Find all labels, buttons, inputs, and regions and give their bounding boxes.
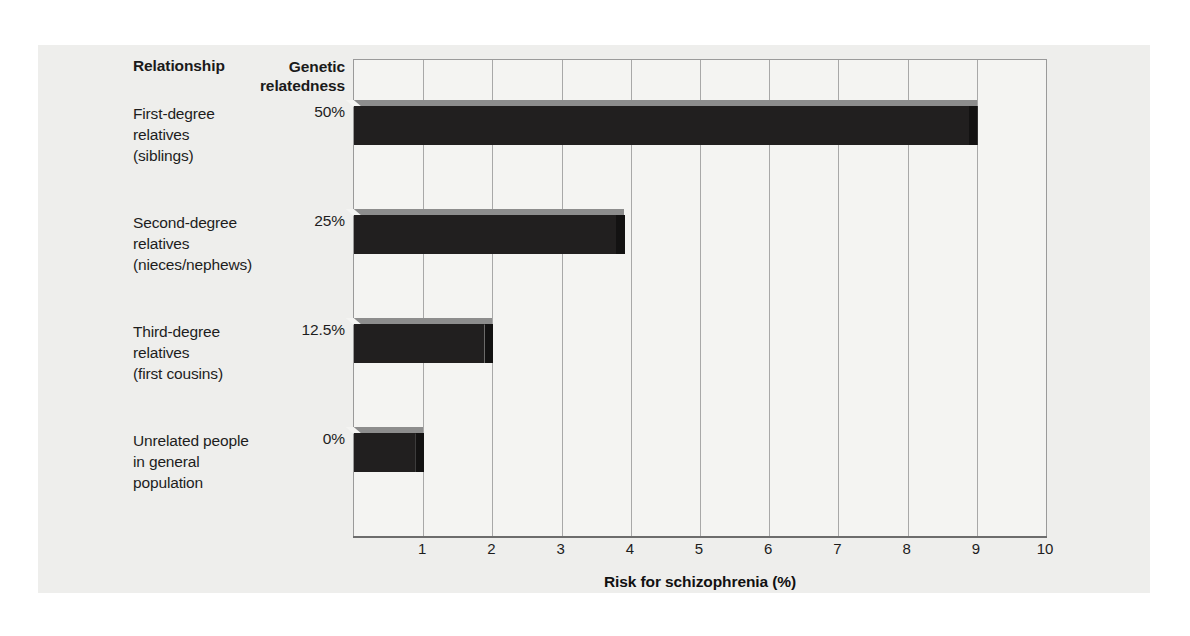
x-tick-label-8: 8 [887, 540, 927, 557]
row-label-line: (first cousins) [133, 363, 283, 384]
row-label-line: in general [133, 451, 283, 472]
plot-area [353, 59, 1047, 537]
x-tick-label-5: 5 [679, 540, 719, 557]
chart-figure: Relationship Genetic relatedness First-d… [38, 45, 1150, 593]
row-label: Third-degreerelatives(first cousins) [133, 321, 283, 384]
row-label-line: (siblings) [133, 145, 283, 166]
row-label-line: Third-degree [133, 321, 283, 342]
bar-front-face [354, 324, 484, 363]
x-axis-line [353, 536, 1047, 538]
bar-front-face [354, 433, 415, 472]
row-label-line: relatives [133, 124, 283, 145]
x-tick-label-4: 4 [610, 540, 650, 557]
bar-side-face [969, 106, 978, 145]
x-tick-label-10: 10 [1025, 540, 1065, 557]
bar-side-face [415, 433, 424, 472]
row-label-line: (nieces/nephews) [133, 254, 283, 275]
x-axis-title: Risk for schizophrenia (%) [353, 573, 1047, 591]
row-label: Unrelated peoplein generalpopulation [133, 430, 283, 493]
genetic-relatedness-value: 50% [268, 103, 345, 121]
x-tick-label-6: 6 [748, 540, 788, 557]
bar [354, 100, 977, 139]
bar-side-face [484, 324, 493, 363]
row-label-line: Second-degree [133, 212, 283, 233]
x-tick-label-7: 7 [817, 540, 857, 557]
row-label-column: Relationship Genetic relatedness First-d… [38, 45, 353, 593]
bar [354, 427, 423, 466]
row-label-line: First-degree [133, 103, 283, 124]
x-tick-label-2: 2 [471, 540, 511, 557]
genetic-relatedness-value: 12.5% [268, 321, 345, 339]
bar-front-face [354, 215, 616, 254]
row-label-line: population [133, 472, 283, 493]
genetic-relatedness-value: 0% [268, 430, 345, 448]
column-header-genetic-relatedness: Genetic relatedness [200, 57, 345, 95]
x-tick-label-9: 9 [956, 540, 996, 557]
bar-side-face [616, 215, 625, 254]
bar-front-face [354, 106, 969, 145]
row-label-line: relatives [133, 233, 283, 254]
bar [354, 318, 492, 357]
row-label-line: Unrelated people [133, 430, 283, 451]
row-label: First-degreerelatives(siblings) [133, 103, 283, 166]
row-label: Second-degreerelatives(nieces/nephews) [133, 212, 283, 275]
x-tick-label-1: 1 [402, 540, 442, 557]
row-label-line: relatives [133, 342, 283, 363]
x-tick-label-3: 3 [541, 540, 581, 557]
bar [354, 209, 624, 248]
genetic-relatedness-value: 25% [268, 212, 345, 230]
